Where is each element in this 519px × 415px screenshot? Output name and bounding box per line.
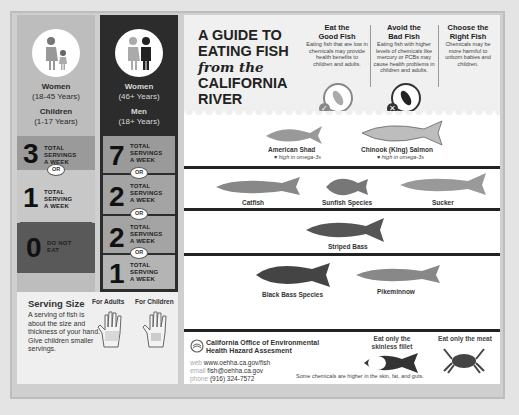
pikeminnow-image (354, 261, 444, 287)
serving-size-description: A serving of fish is about the size and … (28, 311, 100, 354)
sunfish-image (324, 173, 370, 199)
adult-hand-icon (96, 309, 130, 349)
row-divider (184, 166, 500, 169)
striped-bass-image (304, 216, 388, 244)
serving-number: 0 (26, 234, 42, 262)
oehha-logo-icon (190, 339, 204, 353)
fish-name: Catfish (242, 199, 264, 206)
fish-name: Pikeminnow (377, 288, 415, 295)
fish-row-four: Black Bass Species Pikeminnow (184, 257, 500, 327)
serving-number: 3 (23, 140, 39, 168)
group-range: (1-17 Years) (34, 117, 78, 126)
serving-size-panel: Serving Size A serving of fish is about … (17, 292, 178, 384)
skinless-fillet-label: Eat only the skinless fillet (362, 335, 422, 350)
group-women-18-45: Women (18-45 Years) (17, 82, 95, 101)
group-title: Women (17, 82, 95, 92)
contact-info: web www.oehha.ca.gov/fish email fish@oeh… (190, 359, 270, 383)
chinook-salmon-image (360, 119, 446, 147)
sucker-image (398, 171, 490, 199)
serving-label: TOTALSERVINGSA WEEK (130, 224, 163, 245)
fish-row-three: Striped Bass (184, 212, 500, 252)
web-link[interactable]: www.oehha.ca.gov/fish (204, 359, 270, 366)
right-panel: A GUIDE TO EATING FISH from the CALIFORN… (184, 15, 500, 384)
serving-row: 1 TOTALSERVINGA WEEK (103, 255, 175, 289)
group-title: Men (100, 107, 178, 117)
or-badge: OR (130, 247, 148, 259)
group-women-46: Women (46+ Years) (100, 82, 178, 101)
info-good-fish: Eat the Good Fish Eating fish that are l… (306, 24, 368, 67)
group-range: (18-45 Years) (32, 92, 80, 101)
org-name: California Office of Environmental Healt… (206, 339, 319, 355)
header-scallop-edge (184, 111, 500, 117)
divider (438, 25, 439, 87)
group-title: Women (100, 82, 178, 92)
omega-note: ♥ high in omega-3s (377, 154, 424, 160)
fish-name: Sucker (432, 199, 454, 206)
fish-row-two: Catfish Sunfish Species Sucker (184, 171, 500, 209)
footer: California Office of Environmental Healt… (184, 333, 500, 384)
serving-label: TOTALSERVINGA WEEK (130, 262, 158, 283)
woman-man-icon (115, 29, 163, 77)
group-range: (46+ Years) (118, 92, 159, 101)
serving-number: 2 (109, 183, 125, 211)
serving-label: DO NOTEAT (47, 240, 72, 254)
serving-number: 1 (23, 184, 39, 212)
row-divider (184, 208, 500, 211)
fish-name: American Shad (268, 146, 315, 153)
info-right-fish: Choose the Right Fish Chemicals may be m… (440, 24, 496, 67)
page-title: A GUIDE TO EATING FISH from the CALIFORN… (198, 27, 289, 107)
for-children-label: For Children (135, 298, 174, 305)
serving-size-title: Serving Size (28, 298, 85, 309)
or-badge: OR (130, 167, 148, 179)
column-1-pad (17, 275, 95, 292)
fish-name: Sunfish Species (322, 199, 372, 206)
serving-row: 1 TOTALSERVINGA WEEK (17, 170, 95, 222)
group-men: Men (18+ Years) (100, 107, 178, 126)
group-title: Children (17, 107, 95, 117)
fillet-fish-icon (362, 351, 422, 375)
fish-row-best: American Shad ♥ high in omega-3s Chinook… (184, 119, 500, 167)
fish-name: Black Bass Species (262, 291, 323, 298)
or-badge: OR (47, 164, 65, 176)
or-badge: OR (130, 208, 148, 220)
column-women-men: Women (46+ Years) Men (18+ Years) 7 TOTA… (100, 15, 178, 292)
serving-row-do-not-eat-2: 0 DO NOTEAT (20, 222, 92, 270)
crab-icon (442, 345, 486, 375)
american-shad-image (264, 124, 326, 146)
for-adults-label: For Adults (92, 298, 124, 305)
phone-number: (916) 324-7572 (210, 375, 254, 382)
row-divider (184, 329, 500, 332)
black-bass-image (254, 259, 334, 291)
email-link[interactable]: fish@oehha.ca.gov (207, 367, 263, 374)
serving-number: 1 (109, 260, 125, 288)
catfish-image (212, 173, 304, 199)
serving-number: 7 (109, 142, 125, 170)
fish-name: Chinook (King) Salmon (361, 146, 433, 153)
header: A GUIDE TO EATING FISH from the CALIFORN… (184, 15, 500, 115)
serving-number: 2 (109, 224, 125, 252)
row-divider (184, 253, 500, 256)
group-range: (18+ Years) (118, 117, 159, 126)
chemicals-note: Some chemicals are higher in the skin, f… (296, 373, 424, 379)
info-bad-fish: Avoid the Bad Fish Eating fish with high… (372, 24, 436, 74)
serving-label: TOTALSERVINGSA WEEK (130, 143, 163, 164)
serving-label: TOTALSERVINGSA WEEK (130, 183, 163, 204)
woman-child-icon (32, 29, 80, 77)
omega-note: ♥ high in omega-3s (274, 154, 321, 160)
serving-label: TOTALSERVINGA WEEK (44, 189, 72, 210)
divider (370, 25, 371, 87)
meat-label: Eat only the meat (432, 335, 498, 343)
serving-label: TOTALSERVINGSA WEEK (44, 145, 77, 166)
group-children: Children (1-17 Years) (17, 107, 95, 126)
fish-name: Striped Bass (328, 243, 368, 250)
child-hand-icon (141, 309, 173, 349)
